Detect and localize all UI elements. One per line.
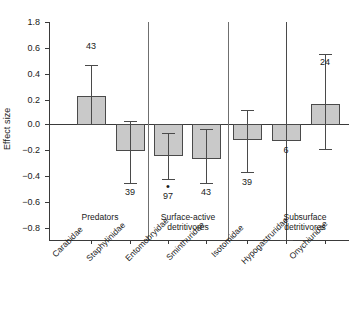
errorbar-cap-top-entomobryidae [162, 133, 175, 134]
group-label-predators-line1: Predators [56, 212, 144, 222]
x-tick-mark-4 [247, 240, 248, 244]
group-separator-1 [148, 22, 149, 240]
errorbar-cap-bottom-staphylinidae [124, 183, 137, 184]
x-tick-mark-2 [168, 240, 169, 244]
x-axis-label-carabidae: Carabidae [50, 224, 85, 259]
y-axis-line [49, 22, 50, 240]
y-tick-label-2: 0.4 [6, 70, 40, 79]
x-tick-mark-5 [286, 240, 287, 244]
errorbar-cap-bottom-sminthuridae [200, 183, 213, 184]
errorbar-line-hypogastruridae [286, 22, 287, 240]
y-tick-label-5: −0.2 [6, 146, 40, 155]
sample-size-entomobryidae: 97 [153, 192, 183, 201]
y-tick-label-3: 0.2 [6, 96, 40, 105]
errorbar-line-staphylinidae [130, 121, 131, 183]
y-tick-label-4: 0.0 [6, 120, 40, 129]
errorbar-line-carabidae [91, 65, 92, 125]
errorbar-cap-bottom-carabidae [85, 124, 98, 125]
errorbar-cap-top-sminthuridae [200, 129, 213, 130]
errorbar-line-onychiuridae [325, 54, 326, 149]
y-tick-label-0: 1.8 [6, 18, 40, 27]
errorbar-cap-top-isotomidae [241, 110, 254, 111]
sample-size-staphylinidae: 39 [115, 188, 145, 197]
errorbar-line-isotomidae [247, 110, 248, 172]
effect-size-bar-chart: Effect size 1.8 0.6 0.4 0.2 0.0 −0.2 −0.… [0, 0, 362, 320]
sample-size-hypogastruridae: 6 [271, 146, 301, 155]
sample-size-carabidae: 43 [76, 42, 106, 51]
y-axis-title: Effect size [2, 82, 12, 96]
errorbar-cap-top-onychiuridae [319, 54, 332, 55]
errorbar-cap-bottom-onychiuridae [319, 149, 332, 150]
x-tick-mark-1 [130, 240, 131, 244]
sample-size-isotomidae: 39 [232, 178, 262, 187]
y-tick-label-1: 0.6 [6, 44, 40, 53]
x-tick-mark-0 [91, 240, 92, 244]
sample-size-sminthuridae: 43 [191, 188, 221, 197]
y-tick-label-6: −0.4 [6, 172, 40, 181]
group-label-subsurface-line1: Subsurface [262, 212, 348, 222]
sample-size-onychiuridae: 24 [310, 58, 340, 67]
y-tick-label-7: −0.6 [6, 198, 40, 207]
errorbar-cap-bottom-isotomidae [241, 172, 254, 173]
y-tick-label-8: −0.8 [6, 224, 40, 233]
group-separator-2 [228, 22, 229, 240]
x-tick-mark-6 [325, 240, 326, 244]
errorbar-cap-top-carabidae [85, 65, 98, 66]
errorbar-line-sminthuridae [206, 129, 207, 183]
group-label-predators: Predators [56, 212, 144, 222]
errorbar-line-entomobryidae [168, 133, 169, 179]
x-tick-mark-3 [206, 240, 207, 244]
errorbar-cap-top-staphylinidae [124, 121, 137, 122]
